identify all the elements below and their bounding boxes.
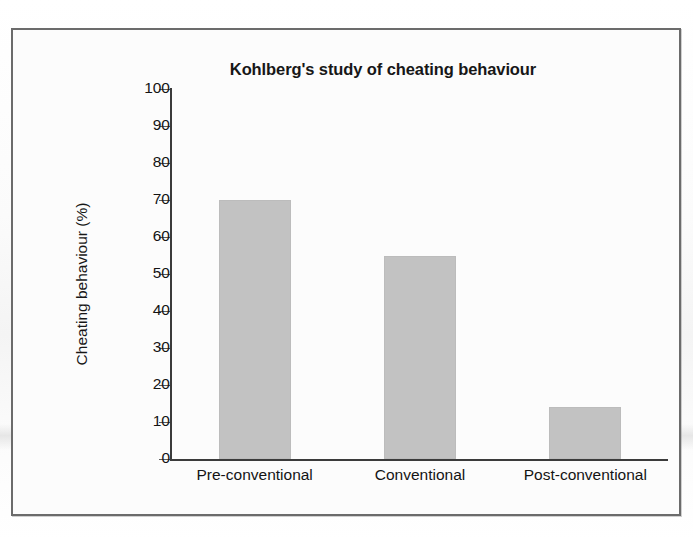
bar [219,200,291,459]
chart-area: Kohlberg's study of cheating behaviour C… [13,30,679,514]
bar-series [13,30,679,514]
bar [384,256,456,460]
figure-frame: Kohlberg's study of cheating behaviour C… [11,28,681,516]
bar [549,407,621,459]
x-axis-label: Pre-conventional [172,466,337,484]
x-axis-label: Post-conventional [503,466,668,484]
x-axis-label: Conventional [337,466,502,484]
